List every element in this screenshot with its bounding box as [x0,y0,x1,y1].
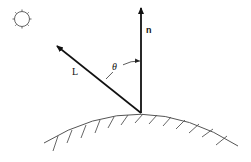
sun-icon [13,10,32,29]
surface [44,114,238,151]
surface-curve [44,114,238,146]
surface-hatching [53,114,227,151]
light-incidence-diagram: n L θ [0,0,251,162]
normal-label: n [146,25,152,35]
light-vector [57,46,141,113]
angle-label: θ [112,61,117,72]
light-label: L [72,66,78,77]
